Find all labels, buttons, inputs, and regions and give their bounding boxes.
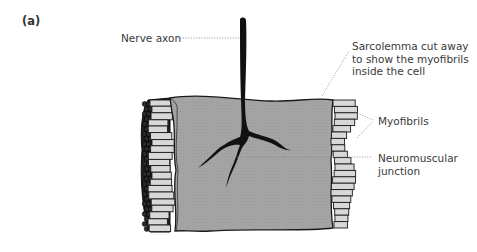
myofibril-strip xyxy=(148,185,172,192)
myofibril-strip xyxy=(149,192,174,199)
myofibril-strip xyxy=(149,225,170,232)
myofibril-strip xyxy=(331,183,354,189)
myofibril-strip xyxy=(152,205,173,212)
myofibril-strip xyxy=(152,140,176,146)
panel-label: (a) xyxy=(22,14,40,28)
diagram-canvas: (a) Nerve axon Sarcolemma cut away to sh… xyxy=(0,0,477,252)
myofibril-strip xyxy=(331,138,344,144)
myofibril-strip xyxy=(148,126,167,133)
myofibril-cross-section xyxy=(146,112,151,117)
myofibril-strip xyxy=(150,133,171,140)
myofibril-strip xyxy=(151,166,170,173)
myofibril-strip xyxy=(335,164,354,170)
myofibril-strip xyxy=(333,202,349,208)
myofibril-cross-section xyxy=(146,172,151,177)
label-sarcolemma-line-1: Sarcolemma cut away xyxy=(352,40,469,53)
label-neuromuscular-junction: Neuromuscular junction xyxy=(378,152,458,177)
label-nmj-line-1: Neuromuscular xyxy=(378,152,458,165)
myofibril-strip xyxy=(333,100,355,106)
myofibril-strip xyxy=(148,159,169,165)
left-myofibril-ends xyxy=(141,98,176,232)
label-nmj-line-2: junction xyxy=(378,165,458,178)
myofibril-strip xyxy=(152,172,171,179)
myofibril-strip xyxy=(149,120,168,126)
label-sarcolemma-line-3: inside the cell xyxy=(352,65,469,78)
label-sarcolemma-line-2: to show the myofibrils xyxy=(352,53,469,66)
right-myofibrils xyxy=(331,100,357,228)
myofibril-strip xyxy=(333,151,347,157)
myofibril-strip xyxy=(335,158,351,164)
myofibril-strip xyxy=(332,196,351,202)
myofibril-strip xyxy=(335,209,349,215)
myofibril-strip xyxy=(331,132,346,138)
myofibril-strip xyxy=(334,119,354,125)
myofibril-strip xyxy=(333,177,356,183)
label-sarcolemma: Sarcolemma cut away to show the myofibri… xyxy=(352,40,469,78)
label-myofibrils: Myofibrils xyxy=(378,115,429,128)
myofibril-strip xyxy=(334,170,355,176)
sarcolemma-surface xyxy=(170,96,333,231)
myofibril-strip xyxy=(150,212,169,219)
myofibril-strip xyxy=(148,152,172,159)
myofibril-strip xyxy=(331,190,352,196)
myofibril-strip xyxy=(151,199,175,205)
myofibril-strip xyxy=(334,222,348,228)
myofibril-strip xyxy=(335,215,348,221)
myofibril-strip xyxy=(151,146,176,153)
myofibril-strip xyxy=(332,145,345,151)
leader-sarcolemma xyxy=(322,51,349,96)
myofibril-strip xyxy=(333,126,351,132)
myofibril-strip xyxy=(335,113,357,119)
label-nerve-axon: Nerve axon xyxy=(121,32,181,45)
leader-myofibrils-lower xyxy=(357,121,373,138)
myofibril-strip xyxy=(151,113,172,120)
myofibril-strip xyxy=(150,179,171,185)
myofibril-strip xyxy=(334,106,357,112)
myofibril-strip xyxy=(148,219,167,225)
myofibril-cross-section xyxy=(146,202,151,207)
